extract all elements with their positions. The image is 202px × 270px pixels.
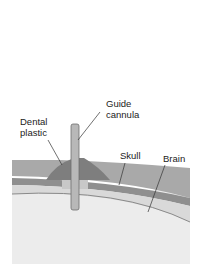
brain-label: Brain [163, 153, 185, 164]
dental-plastic-label: Dental plastic [20, 116, 47, 138]
dental-plastic-label-line2: plastic [20, 127, 47, 138]
guide-cannula-label-line2: cannula [106, 109, 139, 120]
guide-cannula [71, 124, 79, 210]
guide-cannula-leader [78, 112, 100, 140]
skull-label: Skull [120, 150, 141, 161]
dental-plastic-label-line1: Dental [20, 116, 47, 127]
guide-cannula-label: Guide cannula [106, 98, 139, 120]
guide-cannula-label-line1: Guide [106, 98, 139, 109]
